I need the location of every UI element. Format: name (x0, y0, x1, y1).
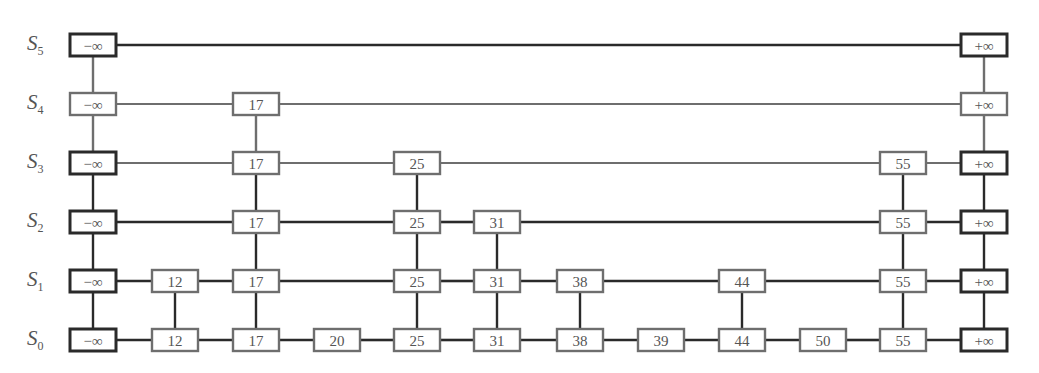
svg-text:31: 31 (490, 333, 505, 349)
skip-list-node: 25 (394, 211, 440, 233)
skip-list-node: +∞ (961, 270, 1007, 292)
svg-text:+∞: +∞ (974, 333, 993, 349)
svg-text:17: 17 (249, 333, 265, 349)
svg-text:55: 55 (896, 274, 911, 290)
skip-list-node: 17 (233, 270, 279, 292)
svg-text:−∞: −∞ (83, 274, 102, 290)
skip-list-node: −∞ (70, 329, 116, 351)
svg-text:38: 38 (573, 274, 588, 290)
skip-list-node: 55 (880, 152, 926, 174)
svg-text:−∞: −∞ (83, 38, 102, 54)
svg-text:17: 17 (249, 156, 265, 172)
skip-list-node: +∞ (961, 152, 1007, 174)
skip-list-node: −∞ (70, 152, 116, 174)
skip-list-node: −∞ (70, 93, 116, 115)
skip-list-node: +∞ (961, 34, 1007, 56)
svg-text:38: 38 (573, 333, 588, 349)
svg-text:25: 25 (410, 215, 425, 231)
skip-list-node: 31 (474, 211, 520, 233)
svg-text:−∞: −∞ (83, 215, 102, 231)
skip-list-node: 25 (394, 270, 440, 292)
svg-text:17: 17 (249, 274, 265, 290)
svg-text:+∞: +∞ (974, 274, 993, 290)
skip-list-node: 20 (314, 329, 360, 351)
svg-text:17: 17 (249, 215, 265, 231)
skip-list-node: −∞ (70, 270, 116, 292)
svg-text:31: 31 (490, 215, 505, 231)
svg-text:25: 25 (410, 333, 425, 349)
skip-list-node: 25 (394, 152, 440, 174)
skip-list-node: 17 (233, 329, 279, 351)
skip-list-node: 17 (233, 211, 279, 233)
skip-list-node: 12 (152, 329, 198, 351)
skip-list-node: 31 (474, 270, 520, 292)
skip-list-node: 55 (880, 211, 926, 233)
svg-text:17: 17 (249, 97, 265, 113)
skip-list-node: 17 (233, 152, 279, 174)
svg-text:44: 44 (735, 274, 751, 290)
skip-list-node: 38 (557, 329, 603, 351)
svg-text:12: 12 (168, 274, 183, 290)
skip-list-node: +∞ (961, 211, 1007, 233)
svg-text:−∞: −∞ (83, 156, 102, 172)
svg-text:25: 25 (410, 274, 425, 290)
skip-list-node: +∞ (961, 93, 1007, 115)
svg-text:50: 50 (816, 333, 831, 349)
svg-text:+∞: +∞ (974, 97, 993, 113)
skip-list-node: 38 (557, 270, 603, 292)
svg-text:39: 39 (654, 333, 669, 349)
skip-list-node: 55 (880, 270, 926, 292)
skip-list-node: −∞ (70, 34, 116, 56)
svg-text:−∞: −∞ (83, 333, 102, 349)
svg-text:25: 25 (410, 156, 425, 172)
skip-list-node: 17 (233, 93, 279, 115)
svg-text:55: 55 (896, 215, 911, 231)
svg-text:20: 20 (330, 333, 345, 349)
skip-list-diagram: −∞+∞−∞17+∞−∞172555+∞−∞17253155+∞−∞121725… (0, 0, 1039, 373)
svg-text:31: 31 (490, 274, 505, 290)
svg-text:+∞: +∞ (974, 215, 993, 231)
svg-text:12: 12 (168, 333, 183, 349)
skip-list-node: 39 (638, 329, 684, 351)
skip-list-node: 12 (152, 270, 198, 292)
skip-list-node: 55 (880, 329, 926, 351)
skip-list-node: 44 (719, 329, 765, 351)
skip-list-node: 25 (394, 329, 440, 351)
svg-text:+∞: +∞ (974, 156, 993, 172)
svg-text:55: 55 (896, 156, 911, 172)
svg-text:44: 44 (735, 333, 751, 349)
skip-list-node: 50 (800, 329, 846, 351)
svg-text:55: 55 (896, 333, 911, 349)
svg-text:+∞: +∞ (974, 38, 993, 54)
skip-list-node: 31 (474, 329, 520, 351)
svg-text:−∞: −∞ (83, 97, 102, 113)
skip-list-node: −∞ (70, 211, 116, 233)
skip-list-node: +∞ (961, 329, 1007, 351)
skip-list-node: 44 (719, 270, 765, 292)
